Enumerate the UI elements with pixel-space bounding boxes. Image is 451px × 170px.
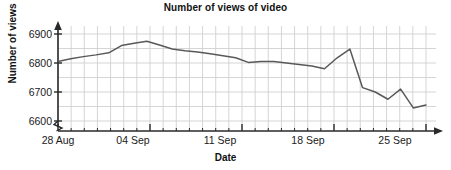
plot-area: [0, 0, 451, 170]
x-axis-arrow-icon: [434, 127, 443, 135]
chart-container: Number of views of video Number of views…: [0, 0, 451, 170]
grid-lines: [58, 26, 436, 131]
y-axis-arrow-icon: [54, 21, 62, 30]
